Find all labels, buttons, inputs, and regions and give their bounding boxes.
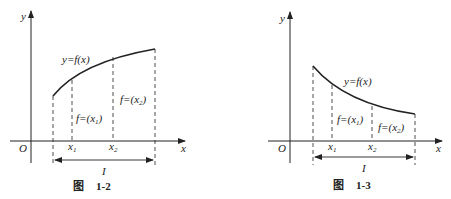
f-x2-label: f=(x2) [120,93,147,107]
origin-label: O [19,142,27,154]
caption: 图1-2 [73,180,111,192]
figure-1-3: y x O y=f(x) x1 x2 I f=(x1) f=(x2) 图1-3 [268,12,442,191]
f-x1-label: f=(x1) [76,112,103,126]
diagram-canvas: y x O y=f(x) x1 x2 I f=(x1) f=(x2) 图1-2 … [0,0,451,199]
x-axis-label: x [180,142,186,154]
x2-label: x2 [367,140,377,154]
figure-1-2: y x O y=f(x) x1 x2 I f=(x1) f=(x2) 图1-2 [10,10,186,192]
f-x1-label: f=(x1) [337,113,364,127]
y-axis-label: y [20,10,26,22]
y-axis-label: y [279,12,285,24]
x1-label: x1 [67,140,76,154]
caption: 图1-3 [333,179,371,191]
curve-label: y=f(x) [343,75,372,88]
decreasing-curve [313,66,415,114]
x1-label: x1 [327,140,336,154]
f-x2-label: f=(x2) [378,121,405,135]
interval-label: I [101,165,107,177]
x-axis-label: x [435,142,441,154]
curve-label: y=f(x) [61,53,90,66]
origin-label: O [278,142,286,154]
x2-label: x2 [108,140,118,154]
interval-label: I [361,162,367,174]
